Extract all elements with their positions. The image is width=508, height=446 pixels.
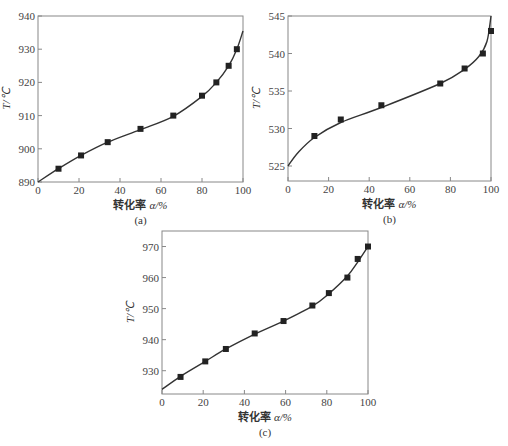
x-tick-label: 100 bbox=[483, 183, 500, 195]
plot-frame bbox=[288, 16, 491, 181]
x-tick-label: 0 bbox=[35, 184, 41, 196]
chart-panel-a: 020406080100890900910920930940T/℃转化率α/%(… bbox=[0, 10, 252, 227]
y-tick-label: 525 bbox=[269, 160, 286, 172]
x-axis-title-unit: /% bbox=[403, 198, 416, 210]
data-point-marker bbox=[223, 346, 229, 352]
data-point-marker bbox=[138, 126, 144, 132]
y-tick-label: 930 bbox=[143, 365, 160, 377]
data-point-marker bbox=[56, 166, 62, 172]
chart-caption: (b) bbox=[383, 213, 396, 226]
data-point-marker bbox=[199, 93, 205, 99]
fit-curve bbox=[162, 247, 368, 390]
x-axis-title-unit: /% bbox=[154, 199, 167, 211]
x-tick-label: 100 bbox=[235, 184, 252, 196]
x-tick-label: 60 bbox=[404, 183, 416, 195]
chart-panel-c: 020406080100930940950960970T/℃转化率α/%(c) bbox=[124, 231, 377, 439]
data-point-marker bbox=[178, 374, 184, 380]
figure: 020406080100890900910920930940T/℃转化率α/%(… bbox=[0, 0, 508, 446]
x-tick-label: 40 bbox=[364, 183, 376, 195]
x-tick-label: 80 bbox=[197, 184, 209, 196]
y-tick-label: 970 bbox=[143, 241, 160, 253]
y-tick-label: 540 bbox=[269, 48, 286, 60]
x-tick-label: 20 bbox=[74, 184, 86, 196]
plot-frame bbox=[38, 16, 243, 182]
data-point-marker bbox=[213, 79, 219, 85]
x-axis-title: 转化率α/% bbox=[362, 197, 416, 211]
data-point-marker bbox=[355, 256, 361, 262]
data-point-marker bbox=[281, 318, 287, 324]
data-point-marker bbox=[338, 117, 344, 123]
x-tick-label: 0 bbox=[159, 396, 165, 408]
x-tick-label: 60 bbox=[156, 184, 168, 196]
x-tick-label: 60 bbox=[280, 396, 292, 408]
y-tick-label: 900 bbox=[19, 143, 36, 155]
fit-curve bbox=[38, 31, 243, 182]
y-axis-title: T/℃ bbox=[250, 86, 262, 109]
data-point-marker bbox=[378, 102, 384, 108]
y-tick-label: 545 bbox=[269, 10, 286, 22]
y-tick-label: 930 bbox=[19, 43, 36, 55]
x-tick-label: 20 bbox=[323, 183, 335, 195]
x-axis-title: 转化率α/% bbox=[113, 198, 167, 212]
y-tick-label: 530 bbox=[269, 123, 286, 135]
data-point-marker bbox=[309, 303, 315, 309]
chart-caption: (a) bbox=[134, 214, 147, 227]
data-point-marker bbox=[462, 66, 468, 72]
y-tick-label: 960 bbox=[143, 272, 160, 284]
x-axis-title: 转化率α/% bbox=[238, 410, 292, 424]
chart-panel-b: 020406080100525530535540545T/℃转化率α/%(b) bbox=[250, 10, 500, 226]
x-axis-title-text: 转化率 bbox=[362, 197, 395, 211]
chart-caption: (c) bbox=[259, 426, 272, 439]
data-point-marker bbox=[480, 51, 486, 57]
data-point-marker bbox=[344, 275, 350, 281]
x-tick-label: 100 bbox=[360, 396, 377, 408]
data-point-marker bbox=[488, 28, 494, 34]
x-tick-label: 20 bbox=[198, 396, 210, 408]
y-tick-label: 890 bbox=[19, 176, 36, 188]
x-tick-label: 40 bbox=[115, 184, 127, 196]
data-point-marker bbox=[170, 113, 176, 119]
y-axis-title: T/℃ bbox=[124, 300, 136, 323]
y-tick-label: 940 bbox=[143, 334, 160, 346]
x-tick-label: 0 bbox=[285, 183, 291, 195]
y-axis-title: T/℃ bbox=[0, 86, 12, 109]
y-tick-label: 940 bbox=[19, 10, 36, 22]
data-point-marker bbox=[78, 152, 84, 158]
data-point-marker bbox=[202, 358, 208, 364]
fit-curve bbox=[288, 16, 491, 166]
data-point-marker bbox=[437, 81, 443, 87]
data-point-marker bbox=[252, 330, 258, 336]
x-axis-title-text: 转化率 bbox=[238, 410, 271, 424]
data-point-marker bbox=[105, 139, 111, 145]
x-tick-label: 40 bbox=[239, 396, 251, 408]
y-tick-label: 950 bbox=[143, 303, 160, 315]
x-axis-title-text: 转化率 bbox=[113, 198, 146, 212]
data-point-marker bbox=[234, 46, 240, 52]
data-point-marker bbox=[311, 133, 317, 139]
data-point-marker bbox=[326, 290, 332, 296]
y-tick-label: 910 bbox=[19, 110, 36, 122]
data-point-marker bbox=[365, 244, 371, 250]
y-tick-label: 920 bbox=[19, 76, 36, 88]
x-axis-title-unit: /% bbox=[279, 411, 292, 423]
data-point-marker bbox=[226, 63, 232, 69]
x-tick-label: 80 bbox=[445, 183, 457, 195]
y-tick-label: 535 bbox=[269, 85, 286, 97]
x-tick-label: 80 bbox=[321, 396, 333, 408]
